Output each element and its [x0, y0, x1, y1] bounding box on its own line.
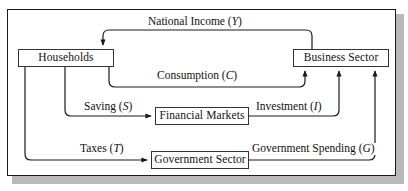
flow-label-investment: Investment (I): [254, 101, 324, 113]
flow-label-saving: Saving (S): [82, 101, 134, 113]
flow-label-investment-text: Investment (: [256, 100, 314, 112]
flow-label-government-spending-close: ): [371, 142, 375, 154]
flow-label-taxes-close: ): [120, 142, 124, 154]
arrow-national-income: [103, 30, 312, 49]
flow-label-national-income-close: ): [238, 15, 242, 27]
node-government-sector-label: Government Sector: [154, 154, 245, 166]
flow-label-taxes-text: Taxes (: [80, 142, 113, 154]
flow-label-consumption-text: Consumption (: [157, 69, 226, 81]
node-financial-markets[interactable]: Financial Markets: [155, 107, 249, 125]
flow-label-national-income: National Income (Y): [146, 16, 244, 28]
node-financial-markets-label: Financial Markets: [159, 110, 244, 122]
node-households-label: Households: [38, 52, 93, 64]
flow-symbol-government-spending: G: [363, 142, 371, 154]
flow-label-national-income-text: National Income (: [148, 15, 232, 27]
flow-label-consumption-close: ): [233, 69, 237, 81]
circular-flow-diagram: Households Business Sector Financial Mar…: [0, 0, 408, 191]
flow-label-consumption: Consumption (C): [155, 70, 239, 82]
flow-label-saving-close: ): [128, 100, 132, 112]
node-government-sector[interactable]: Government Sector: [151, 151, 249, 169]
node-business-sector-label: Business Sector: [304, 52, 379, 64]
node-business-sector[interactable]: Business Sector: [293, 49, 389, 67]
node-households[interactable]: Households: [18, 49, 114, 67]
flow-label-saving-text: Saving (: [84, 100, 123, 112]
flow-label-investment-close: ): [318, 100, 322, 112]
flow-label-taxes: Taxes (T): [78, 143, 126, 155]
flow-label-government-spending-text: Government Spending (: [252, 142, 363, 154]
flow-label-government-spending: Government Spending (G): [250, 143, 377, 155]
